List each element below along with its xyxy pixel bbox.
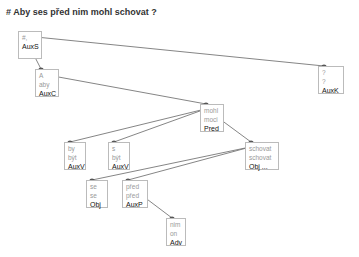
tree-node-question-mark[interactable]: ??AuxK [318, 66, 344, 94]
tree-edge [70, 109, 206, 142]
tree-node-by[interactable]: bybýtAuxV [64, 142, 86, 170]
tree-node-se[interactable]: seseObj [86, 180, 108, 208]
tree-node-schovat[interactable]: schovatschovatObj ... [245, 142, 279, 170]
tree-node-aby[interactable]: AabyAuxC [35, 69, 59, 97]
tree-node-s[interactable]: sbýtAuxV [108, 142, 130, 170]
tree-edge [114, 109, 206, 142]
tree-edge [24, 36, 324, 66]
tree-node-pred[interactable]: předpředAuxP [122, 180, 148, 208]
tree-edge [128, 147, 251, 180]
tree-node-mohl[interactable]: mohlmociPred [200, 104, 224, 132]
tree-edge [41, 74, 206, 104]
tree-node-nim[interactable]: nimonAdv [166, 218, 186, 246]
tree-node-root[interactable]: #,AuxS [18, 31, 42, 59]
